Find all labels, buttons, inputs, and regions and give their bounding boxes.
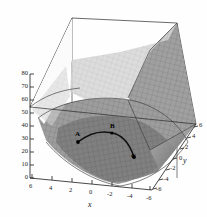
z-tick-30: 30 [12,135,28,142]
z-tick-80: 80 [12,70,28,77]
y-tick-neg2: -2 [170,165,175,172]
y-tick-6: 6 [199,122,202,129]
z-tick-60: 60 [12,96,28,103]
y-axis-label: y [183,157,187,165]
x-tick-neg2: -2 [107,191,112,198]
x-tick-neg4: -4 [127,193,132,200]
x-tick-2: 2 [69,187,72,194]
x-tick-4: 4 [49,185,52,192]
z-tick-10: 10 [12,161,28,168]
y-tick-neg6: -6 [156,186,161,193]
surface-mesh [30,18,196,184]
z-tick-40: 40 [12,122,28,129]
y-tick-neg4: -4 [163,176,168,183]
z-tick-70: 70 [12,83,28,90]
y-tick-0: 0 [179,155,182,162]
z-tick-0: 0 [12,174,28,181]
surface-plot-figure: 80 70 60 50 40 30 20 10 0 6 4 2 0 -2 -4 … [0,0,207,217]
x-axis-label: x [88,201,92,209]
point-label-b: B [110,123,115,130]
y-tick-4: 4 [192,133,195,140]
z-tick-20: 20 [12,148,28,155]
x-tick-6: 6 [29,183,32,190]
point-label-a: A [75,131,80,138]
y-tick-2: 2 [185,144,188,151]
point-label-c: C [131,153,136,160]
z-tick-50: 50 [12,109,28,116]
z-axis [30,74,34,178]
x-tick-0: 0 [89,189,92,196]
x-tick-neg6: -6 [146,195,151,202]
